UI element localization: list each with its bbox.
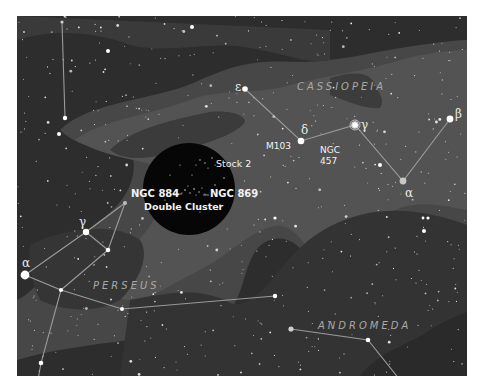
label-per-gamma: γ bbox=[79, 215, 86, 229]
label-stock-2[interactable]: Stock 2 bbox=[216, 158, 251, 169]
label-per-alpha: α bbox=[22, 256, 30, 270]
star-per-south[interactable] bbox=[39, 361, 44, 366]
star-cas-alpha[interactable] bbox=[400, 178, 407, 185]
label-cas-delta: δ bbox=[301, 123, 308, 137]
star-per-gamma[interactable] bbox=[83, 229, 89, 235]
star-cas-delta[interactable] bbox=[298, 138, 305, 145]
label-perseus: PERSEUS bbox=[93, 280, 160, 291]
star-per-alpha[interactable] bbox=[21, 271, 30, 280]
label-cas-gamma: γ bbox=[361, 118, 368, 132]
label-double-cluster[interactable]: Double Cluster bbox=[144, 201, 224, 212]
label-ngc-884[interactable]: NGC 884 bbox=[131, 188, 179, 199]
star-per-eta[interactable] bbox=[123, 201, 127, 205]
star-north-top[interactable] bbox=[60, 20, 63, 23]
star-chart: CASSIOPEIA PERSEUS ANDROMEDA ε δ γ α β α… bbox=[0, 0, 480, 387]
star-per-delta[interactable] bbox=[106, 248, 111, 253]
star-per-east[interactable] bbox=[120, 307, 124, 311]
label-ngc-457-line2[interactable]: 457 bbox=[320, 156, 337, 166]
star-per-junction[interactable] bbox=[59, 288, 63, 292]
label-cas-beta: β bbox=[455, 107, 462, 121]
label-cas-alpha: α bbox=[405, 186, 413, 200]
star-cas-gamma[interactable] bbox=[352, 122, 358, 128]
label-andromeda: ANDROMEDA bbox=[317, 320, 411, 331]
star-and-west[interactable] bbox=[288, 326, 293, 331]
star-cas-beta[interactable] bbox=[447, 116, 454, 123]
star-and-mid[interactable] bbox=[366, 338, 371, 343]
label-cas-epsilon: ε bbox=[235, 80, 241, 94]
label-ngc-457-line1[interactable]: NGC bbox=[320, 145, 340, 155]
star-north-bottom[interactable] bbox=[63, 116, 67, 120]
star-cas-epsilon[interactable] bbox=[242, 86, 248, 92]
label-m103[interactable]: M103 bbox=[266, 141, 291, 151]
star-and-east[interactable] bbox=[273, 294, 277, 298]
label-cassiopeia: CASSIOPEIA bbox=[297, 81, 386, 92]
label-ngc-869[interactable]: NGC 869 bbox=[210, 188, 258, 199]
